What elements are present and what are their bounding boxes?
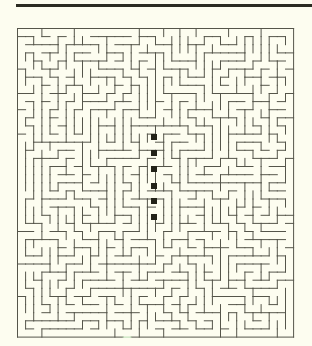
maze-walls — [18, 29, 294, 338]
maze-marker-5 — [151, 198, 157, 204]
maze-marker-3 — [151, 166, 157, 172]
maze-marker-6 — [151, 214, 157, 220]
maze-marker-4 — [151, 183, 157, 189]
maze-board[interactable] — [0, 0, 312, 346]
maze-grid[interactable] — [0, 0, 312, 346]
maze-marker-1 — [151, 134, 157, 140]
maze-marker-2 — [151, 150, 157, 156]
